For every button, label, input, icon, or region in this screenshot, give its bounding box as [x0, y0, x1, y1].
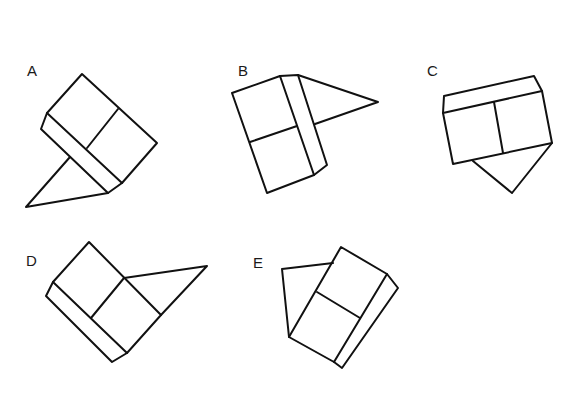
- figure-label-c: C: [427, 62, 438, 79]
- triangle-flap: [298, 75, 378, 124]
- face-divider: [317, 292, 360, 318]
- figure-e[interactable]: E: [253, 247, 398, 368]
- side-strip: [280, 75, 327, 175]
- figure-a[interactable]: A: [26, 62, 157, 207]
- figure-d[interactable]: D: [26, 242, 207, 362]
- figure-options-diagram: A B C D E: [0, 0, 575, 420]
- side-strip: [334, 274, 398, 368]
- figure-label-d: D: [26, 252, 37, 269]
- side-strip: [46, 282, 127, 362]
- side-strip: [41, 113, 122, 193]
- figure-label-e: E: [253, 254, 263, 271]
- figure-label-a: A: [27, 62, 37, 79]
- face-divider: [494, 102, 503, 153]
- face-divider: [87, 109, 118, 148]
- figure-b[interactable]: B: [232, 62, 378, 193]
- figure-c[interactable]: C: [427, 62, 552, 193]
- figure-label-b: B: [238, 62, 248, 79]
- face-divider: [250, 126, 297, 142]
- face-divider: [91, 278, 124, 318]
